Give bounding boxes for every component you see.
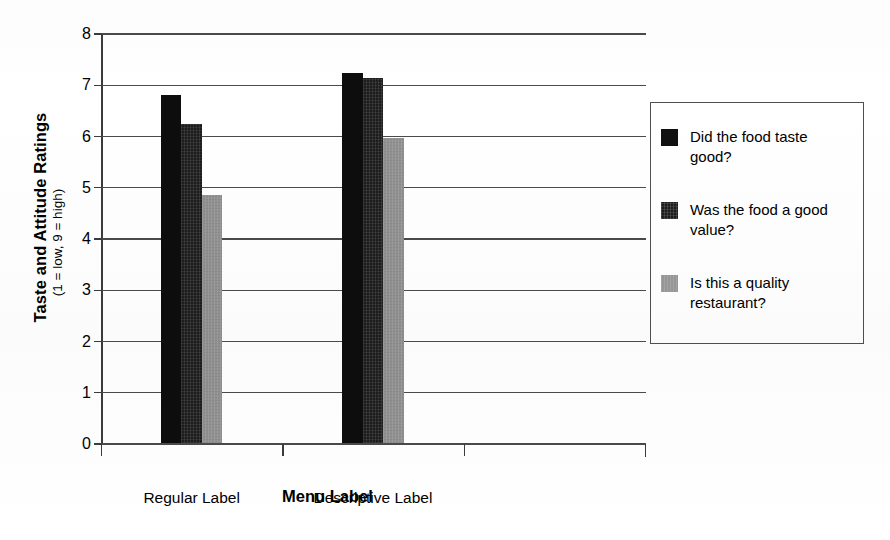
legend-swatch-series-1-icon [661,129,678,146]
y-axis-tick-label: 3 [65,282,91,298]
y-axis-tick-mark [94,136,102,137]
y-axis-tick-mark [94,238,102,239]
legend-label: Was the food a good value? [690,200,845,240]
legend-label: Is this a quality restaurant? [690,273,845,313]
bar [161,95,181,444]
bar [181,124,201,443]
y-axis-tick-label: 8 [65,26,91,42]
legend-item: Did the food taste good? [661,127,857,167]
y-axis-tick-label: 0 [65,436,91,452]
y-axis-tick-label: 2 [65,334,91,350]
y-axis-tick-mark [94,187,102,188]
x-axis-tick-mark [282,444,283,456]
y-axis-tick-mark [94,392,102,393]
y-axis-title: Taste and Attitude Ratings [31,28,50,408]
bar [383,138,403,443]
gridline [101,33,646,34]
y-axis-tick-label: 7 [65,77,91,93]
y-axis-subtitle: (1 = low, 9 = high) [50,53,65,433]
legend-swatch-series-2-icon [661,202,678,219]
gridline [101,443,646,444]
legend-item: Is this a quality restaurant? [661,273,857,313]
y-axis-tick-mark [94,85,102,86]
bar [363,78,383,443]
bar-chart-figure: Taste and Attitude Ratings (1 = low, 9 =… [0,0,890,540]
legend-swatch-series-3-icon [661,275,678,292]
y-axis-tick-label: 5 [65,180,91,196]
y-axis-tick-label: 4 [65,231,91,247]
bar [202,195,222,443]
x-axis-title: Menu Label [101,487,554,506]
y-axis-tick-mark [94,290,102,291]
legend-item: Was the food a good value? [661,200,857,240]
legend-box: Did the food taste good? Was the food a … [650,102,864,344]
legend-label: Did the food taste good? [690,127,845,167]
bar [342,73,362,443]
x-axis-tick-mark [101,444,102,456]
x-axis-tick-mark [464,444,465,456]
y-axis-tick-mark [94,33,102,34]
y-axis-tick-mark [94,341,102,342]
y-axis-tick-label: 1 [65,385,91,401]
x-axis-tick-mark [645,444,646,457]
y-axis-title-group: Taste and Attitude Ratings (1 = low, 9 =… [8,30,64,442]
y-axis-tick-label: 6 [65,129,91,145]
plot-area: 876543210 Regular LabelDescriptive Label [101,34,646,444]
